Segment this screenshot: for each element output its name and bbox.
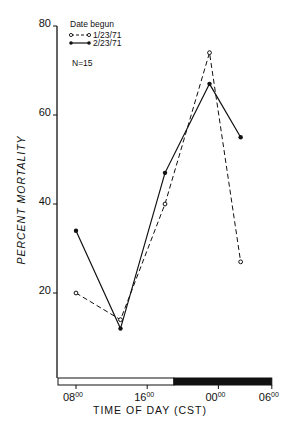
y-tick-label: 80 [39,17,51,29]
filled-circle-marker-icon [118,326,122,330]
legend: Date begun 1/23/71 2/23/71 N=15 [69,19,121,68]
x-axis-title: TIME OF DAY (CST) [93,404,207,416]
series-line-2 [76,84,241,329]
x-tick-label: 0600 [259,391,279,403]
y-axis-title: PERCENT MORTALITY [15,135,27,264]
open-circle-marker-icon [119,318,123,322]
y-tick-label: 60 [39,106,51,118]
filled-circle-marker-icon [163,171,167,175]
legend-open-circle-icon [69,33,72,36]
light-period-bar [58,378,174,385]
mortality-chart: 204060800800160000000600 Date begun 1/23… [0,0,298,427]
legend-title: Date begun [70,19,114,29]
open-circle-marker-icon [74,291,78,295]
x-tick-label: 1600 [134,391,154,403]
series-layer [74,51,243,331]
y-tick-label: 20 [39,284,51,296]
open-circle-marker-icon [208,51,212,55]
open-circle-marker-icon [239,260,243,264]
axes: 204060800800160000000600 [39,17,279,403]
open-circle-marker-icon [163,202,167,206]
legend-filled-circle-icon [87,41,91,45]
series-line-1 [76,53,241,320]
legend-open-circle-icon [87,33,90,36]
filled-circle-marker-icon [207,82,211,86]
legend-label-series-2: 2/23/71 [93,38,122,48]
filled-circle-marker-icon [238,135,242,139]
dark-period-bar [174,378,272,385]
legend-filled-circle-icon [69,41,73,45]
y-tick-label: 40 [39,195,51,207]
filled-circle-marker-icon [74,229,78,233]
x-tick-label: 0800 [63,391,83,403]
x-tick-label: 0000 [205,391,225,403]
sample-size-annotation: N=15 [72,58,93,68]
